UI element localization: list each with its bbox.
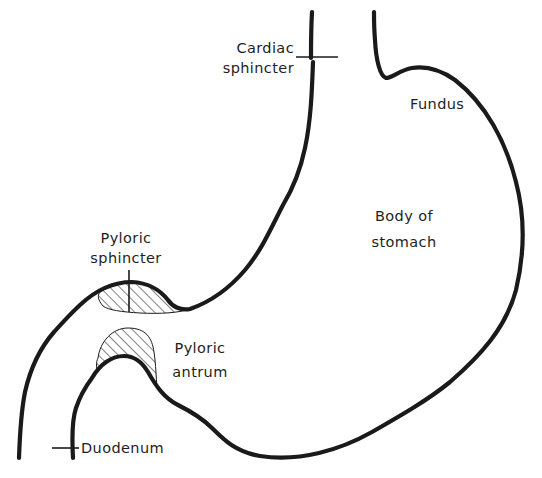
body-of-stomach-label: Body of stomach — [364, 203, 444, 255]
fundus-label: Fundus — [410, 94, 464, 114]
cardiac-sphincter-label-line2: sphincter — [222, 58, 294, 78]
cardiac-sphincter-label-line1: Cardiac — [222, 38, 294, 58]
duodenum-label: Duodenum — [81, 438, 164, 458]
stomach-diagram: Cardiac sphincter Fundus Body of stomach… — [0, 0, 542, 478]
pyloric-sphincter-label-line1: Pyloric — [88, 228, 164, 248]
pyloric-sphincter-label-line2: sphincter — [88, 248, 164, 268]
body-of-stomach-label-line2: stomach — [364, 229, 444, 255]
pyloric-sphincter-label: Pyloric sphincter — [88, 228, 164, 268]
pyloric-antrum-label: Pyloric antrum — [168, 336, 232, 384]
cardiac-sphincter-label: Cardiac sphincter — [222, 38, 294, 78]
lesser-curvature-outline — [19, 12, 313, 458]
pyloric-antrum-label-line2: antrum — [168, 360, 232, 384]
body-of-stomach-label-line1: Body of — [364, 203, 444, 229]
pyloric-antrum-label-line1: Pyloric — [168, 336, 232, 360]
